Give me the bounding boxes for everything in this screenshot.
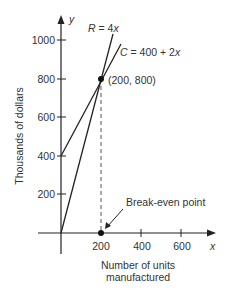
break-even-arrow bbox=[107, 209, 123, 227]
x-tick-label: 600 bbox=[173, 240, 191, 252]
intersection-point bbox=[98, 76, 104, 82]
x-tick-label: 200 bbox=[92, 240, 110, 252]
y-tick-label: 600 bbox=[37, 111, 55, 123]
intersection-label: (200, 800) bbox=[108, 74, 156, 86]
x-axis-symbol: x bbox=[209, 240, 216, 252]
x-axis-label-line2: manufactured bbox=[106, 271, 170, 283]
revenue-line bbox=[61, 34, 113, 233]
y-tick-label: 1000 bbox=[32, 34, 56, 46]
y-axis-symbol: y bbox=[68, 13, 75, 25]
revenue-line-label: R = 4x bbox=[88, 22, 119, 34]
y-axis-arrow-icon bbox=[58, 15, 65, 24]
y-tick-label: 200 bbox=[37, 188, 55, 200]
y-tick-label: 400 bbox=[37, 150, 55, 162]
break-even-chart: y x 1000 800 600 400 200 200 400 600 Tho… bbox=[0, 0, 229, 291]
x-tick-label: 400 bbox=[133, 240, 151, 252]
cost-line-label: C = 400 + 2x bbox=[120, 46, 181, 58]
break-even-label: Break-even point bbox=[126, 196, 205, 208]
x-axis-arrow-icon bbox=[207, 230, 216, 237]
cost-line bbox=[61, 44, 121, 156]
x-axis-label-line1: Number of units bbox=[101, 259, 175, 271]
break-even-point bbox=[98, 230, 104, 236]
y-axis-label: Thousands of dollars bbox=[13, 87, 25, 184]
y-tick-label: 800 bbox=[37, 73, 55, 85]
